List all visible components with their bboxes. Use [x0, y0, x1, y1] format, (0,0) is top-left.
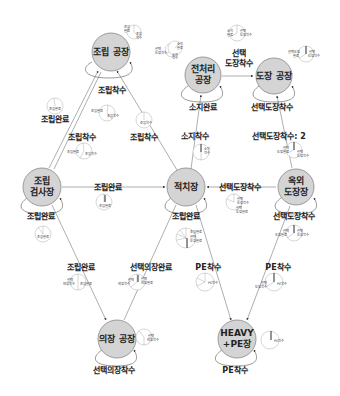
- pie-chart: 조립 완료 조립 착수: [124, 24, 142, 40]
- svg-text:도장착수: 도장착수: [255, 284, 267, 289]
- node-assembly-inspection[interactable]: 조립 검사장: [23, 168, 61, 206]
- pie-chart: 선택 도장착수 PE착수: [255, 273, 287, 291]
- svg-text:도장착수: 도장착수: [308, 53, 320, 58]
- node-outfitting-plant[interactable]: 의장 공장: [98, 320, 136, 358]
- pie-chart: 소지 완료 소지 착수: [168, 41, 183, 60]
- svg-text:의장착수: 의장착수: [147, 337, 159, 342]
- svg-text:조립완료: 조립완료: [80, 281, 92, 286]
- edge-label: 조립완료: [94, 182, 123, 192]
- svg-text:조립완료: 조립완료: [91, 108, 103, 113]
- svg-text:완료: 완료: [227, 32, 233, 37]
- edge-label: 소지완료: [189, 102, 218, 112]
- node-label: 공장: [195, 74, 212, 85]
- svg-text:완료: 완료: [293, 53, 299, 58]
- pie-chart: 선택도장 완료 선택 도장착수: [288, 46, 320, 62]
- node-heavy-pe[interactable]: HEAVY +PE장: [218, 320, 256, 358]
- pie-chart: 선택 의장착수: [136, 329, 159, 345]
- pie-chart: 선택 도장완료 선택 도장착수: [277, 142, 309, 158]
- svg-text:도장착수: 도장착수: [297, 153, 309, 158]
- edge-label: 조립완료: [27, 211, 56, 221]
- process-flow-diagram: 조립 공장 전처리 공장 도장 공장 조립 검사장 적치장 옥외 도장장 의장 …: [0, 0, 340, 396]
- edge-label: 선택도장착수: 2: [252, 131, 306, 141]
- pie-chart: 조립완료 조립착수: [67, 143, 97, 159]
- edge-label: PE착수: [222, 365, 248, 375]
- edge-label: 조립완료: [67, 262, 96, 272]
- pie-chart: 선택 도장착수 선택 도장완료: [226, 194, 249, 214]
- svg-text:조립완료: 조립완료: [49, 106, 61, 111]
- svg-text:조립착수: 조립착수: [85, 151, 97, 156]
- svg-text:의장완료: 의장완료: [141, 280, 153, 285]
- svg-text:도장착수: 도장착수: [237, 200, 249, 205]
- svg-text:도장완료: 도장완료: [190, 238, 202, 243]
- node-label: 옥외: [288, 175, 304, 186]
- svg-text:도장착수: 도장착수: [297, 232, 309, 237]
- pie-chart: 조립완료 선택 도장완료: [176, 228, 202, 248]
- svg-text:조립완료: 조립완료: [99, 203, 111, 208]
- pie-chart: 조립완료 조립착수: [91, 105, 119, 121]
- node-label: 도장 공장: [256, 70, 292, 81]
- node-label: 적치장: [174, 181, 199, 192]
- edge-label: 선택의장완료: [130, 262, 173, 272]
- edge-label: 조립착수: [130, 132, 159, 142]
- svg-text:PE착수: PE착수: [277, 281, 287, 286]
- edge-label: 선택도장착수: [251, 102, 294, 112]
- pie-chart: 선택 의장착수 조립완료: [63, 274, 92, 290]
- node-label: HEAVY: [220, 328, 254, 338]
- svg-text:도장완료: 도장완료: [236, 209, 248, 214]
- svg-text:의장착수: 의장착수: [63, 281, 75, 286]
- edge-label: 조립완료: [172, 211, 201, 221]
- pie-chart: 조립완료: [35, 226, 51, 242]
- svg-text:도장착수: 도장착수: [240, 32, 252, 37]
- node-painting-plant[interactable]: 도장 공장: [256, 58, 293, 94]
- pie-chart: 소지 착수: [193, 144, 210, 160]
- edge-label: 조립착수: [98, 85, 127, 95]
- svg-text:조립완료: 조립완료: [37, 234, 49, 239]
- pie-chart: 조립완료: [47, 98, 63, 114]
- node-label: 전처리: [191, 63, 215, 74]
- node-label: 검사장: [30, 186, 55, 197]
- svg-text:조립착수: 조립착수: [140, 120, 152, 125]
- svg-text:완료: 완료: [124, 28, 130, 33]
- node-label: 조립 공장: [93, 46, 129, 57]
- node-label: +PE장: [223, 338, 252, 349]
- pie-chart: 선택 의장착수 선택 의장완료: [118, 274, 153, 290]
- edge-label: 선택도장착수: [273, 211, 316, 221]
- node-stockyard[interactable]: 적치장: [167, 168, 205, 206]
- node-label: 조립: [34, 175, 50, 186]
- svg-text:도장완료: 도장완료: [277, 149, 289, 154]
- edge-labels: 조립착수 조립완료 조립착수 조립착수 소지완료 선택 도장착수 소지착수 선택…: [27, 48, 316, 375]
- edge-label: 조립완료: [41, 114, 70, 124]
- svg-text:PE착수: PE착수: [274, 338, 284, 343]
- svg-text:착수: 착수: [172, 55, 178, 60]
- node-label: 의장 공장: [99, 333, 135, 344]
- edge-label: 선택도장착수: [219, 182, 262, 192]
- svg-text:PE착수: PE착수: [208, 280, 218, 285]
- svg-text:도장완료: 도장완료: [275, 232, 287, 237]
- edge-label: 조립착수: [68, 132, 97, 142]
- svg-text:착수: 착수: [204, 150, 210, 155]
- edge-label: 소지착수: [181, 131, 210, 141]
- edge-label: 도장착수: [225, 58, 254, 68]
- pie-chart: 조립완료: [96, 194, 112, 210]
- pie-chart: 소지 완료 선택 도장착수: [227, 25, 252, 41]
- svg-text:착수: 착수: [136, 35, 142, 40]
- edge-label: 선택: [232, 48, 246, 58]
- svg-text:조립완료: 조립완료: [67, 149, 79, 154]
- svg-text:도장착수: 도장착수: [155, 50, 167, 55]
- pie-chart: PE착수: [261, 331, 284, 349]
- edge-label: 선택의장착수: [93, 365, 136, 375]
- node-outdoor-painting[interactable]: 옥외 도장장: [278, 169, 314, 205]
- svg-text:조립완료: 조립완료: [190, 229, 202, 234]
- svg-text:완료: 완료: [177, 45, 183, 50]
- pie-chart: PE착수: [196, 273, 218, 291]
- svg-text:의장착수: 의장착수: [118, 281, 130, 286]
- node-preprocessing-plant[interactable]: 전처리 공장: [185, 57, 221, 93]
- node-label: 도장장: [284, 186, 309, 197]
- svg-text:조립착수: 조립착수: [107, 113, 119, 118]
- edge-label: PE착수: [195, 262, 221, 272]
- node-assembly-plant[interactable]: 조립 공장: [92, 33, 130, 71]
- pie-chart: 선택 도장완료 선택 도장착수: [275, 225, 309, 241]
- pie-chart: 조립착수: [136, 112, 152, 128]
- edge-label: PE착수: [265, 262, 291, 272]
